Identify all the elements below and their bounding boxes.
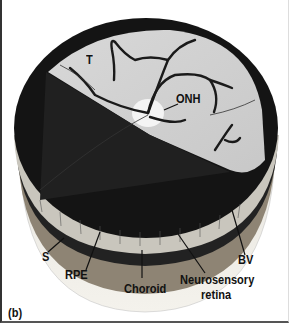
label-temporal: T xyxy=(86,53,93,67)
label-onh: ONH xyxy=(176,92,201,106)
label-neurosensory: Neurosensory xyxy=(180,273,254,287)
label-sclera: S xyxy=(42,250,49,264)
label-bv: BV xyxy=(238,253,253,267)
label-choroid: Choroid xyxy=(124,282,166,296)
label-rpe: RPE xyxy=(65,268,88,282)
panel-label: (b) xyxy=(8,306,22,320)
label-retina: retina xyxy=(201,288,231,302)
